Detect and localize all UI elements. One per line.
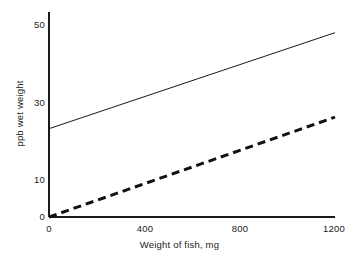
series-dashed-line xyxy=(49,117,335,217)
x-tick-label-0: 0 xyxy=(29,224,69,234)
series-solid-line xyxy=(49,33,335,129)
plot-canvas xyxy=(0,0,359,258)
x-tick-label-400: 400 xyxy=(125,224,165,234)
y-tick-label-0: 0 xyxy=(19,212,45,222)
chart-figure: 50 30 10 0 0 400 800 1200 Weight of fish… xyxy=(0,0,359,258)
data-series-group xyxy=(49,33,335,217)
x-tick-label-1200: 1200 xyxy=(314,224,354,234)
y-tick-label-10: 10 xyxy=(19,175,45,185)
x-tick-label-800: 800 xyxy=(220,224,260,234)
y-tick-label-50: 50 xyxy=(19,20,45,30)
y-axis-title: ppb wet weight xyxy=(14,55,25,173)
x-axis-title: Weight of fish, mg xyxy=(0,239,359,250)
